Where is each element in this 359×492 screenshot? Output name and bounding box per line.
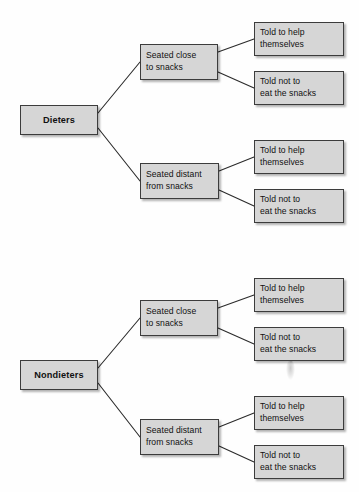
edge-distant-to-help xyxy=(219,157,254,171)
edge-dieters-to-close xyxy=(98,62,140,113)
edge-nd-close-to-nothelp xyxy=(218,328,254,344)
edge-nd-distant-to-nothelp xyxy=(219,446,254,462)
edge-nd-distant-to-help xyxy=(219,413,254,427)
node-nondieters-seated-close: Seated close to snacks xyxy=(140,300,218,336)
node-dieters-root: Dieters xyxy=(20,105,98,135)
node-dieters-close-told-to-help: Told to help themselves xyxy=(254,22,344,56)
node-dieters-distant-told-to-help: Told to help themselves xyxy=(254,140,344,174)
node-dieters-seated-close: Seated close to snacks xyxy=(140,44,218,80)
node-label: Seated close to snacks xyxy=(146,50,196,74)
edge-close-to-help xyxy=(218,39,254,52)
edge-nondieters-to-close xyxy=(98,318,140,368)
node-label: Told not to eat the snacks xyxy=(260,450,316,474)
node-dieters-seated-distant: Seated distant from snacks xyxy=(140,163,219,199)
node-nondieters-distant-told-not-to-eat: Told not to eat the snacks xyxy=(254,445,344,479)
edge-dieters-to-distant xyxy=(98,128,140,181)
edge-distant-to-nothelp xyxy=(219,190,254,206)
scan-artifact-smudge xyxy=(286,360,295,380)
node-label: Seated distant from snacks xyxy=(146,169,202,193)
node-label: Seated distant from snacks xyxy=(146,425,202,449)
node-label: Nondieters xyxy=(34,369,84,382)
node-label: Told to help themselves xyxy=(260,283,305,307)
node-nondieters-root: Nondieters xyxy=(20,360,98,390)
node-dieters-distant-told-not-to-eat: Told not to eat the snacks xyxy=(254,189,344,223)
node-nondieters-close-told-not-to-eat: Told not to eat the snacks xyxy=(254,327,344,361)
node-label: Told to help themselves xyxy=(260,145,305,169)
node-label: Told to help themselves xyxy=(260,27,305,51)
node-label: Told to help themselves xyxy=(260,401,305,425)
node-label: Dieters xyxy=(43,114,75,127)
edge-nondieters-to-distant xyxy=(98,383,140,437)
edge-nd-close-to-help xyxy=(218,295,254,308)
node-dieters-close-told-not-to-eat: Told not to eat the snacks xyxy=(254,71,344,105)
node-nondieters-distant-told-to-help: Told to help themselves xyxy=(254,396,344,430)
node-nondieters-close-told-to-help: Told to help themselves xyxy=(254,278,344,312)
tree-diagram: Dieters Seated close to snacks Seated di… xyxy=(0,0,359,492)
node-label: Seated close to snacks xyxy=(146,306,196,330)
node-label: Told not to eat the snacks xyxy=(260,332,316,356)
node-label: Told not to eat the snacks xyxy=(260,194,316,218)
node-nondieters-seated-distant: Seated distant from snacks xyxy=(140,419,219,455)
edge-close-to-nothelp xyxy=(218,72,254,88)
node-label: Told not to eat the snacks xyxy=(260,76,316,100)
